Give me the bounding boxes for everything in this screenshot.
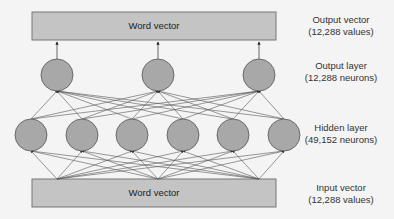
- input-vector-count: (12,288 values): [286, 194, 394, 206]
- output-neuron: [243, 59, 275, 91]
- hidden-neuron: [167, 119, 199, 151]
- hidden-layer-label: Hidden layer (49,152 neurons): [286, 122, 394, 146]
- output-vector-count: (12,288 values): [286, 26, 394, 38]
- output-vector-title: Output vector: [286, 14, 394, 26]
- hidden-layer-count: (49,152 neurons): [286, 134, 394, 146]
- input-box-label: Word vector: [32, 179, 276, 207]
- output-layer-count: (12,288 neurons): [286, 72, 394, 84]
- hidden-layer: [15, 119, 300, 151]
- input-to-hidden-connections: [31, 151, 284, 179]
- hidden-neuron: [66, 119, 98, 151]
- input-vector-title: Input vector: [286, 182, 394, 194]
- output-neuron: [41, 59, 73, 91]
- hidden-to-output-connections: [31, 91, 284, 119]
- output-neuron: [142, 59, 174, 91]
- hidden-neuron: [15, 119, 47, 151]
- output-box-label: Word vector: [32, 12, 276, 40]
- output-arrows: [57, 42, 259, 59]
- hidden-neuron: [217, 119, 249, 151]
- output-layer-title: Output layer: [286, 60, 394, 72]
- input-vector-label: Input vector (12,288 values): [286, 182, 394, 206]
- output-vector-label: Output vector (12,288 values): [286, 14, 394, 38]
- hidden-layer-title: Hidden layer: [286, 122, 394, 134]
- output-layer: [41, 59, 275, 91]
- hidden-neuron: [116, 119, 148, 151]
- output-layer-label: Output layer (12,288 neurons): [286, 60, 394, 84]
